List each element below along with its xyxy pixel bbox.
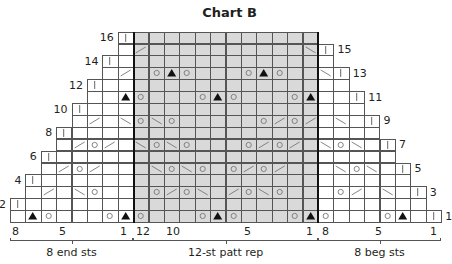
chart-cell <box>349 210 365 223</box>
chart-cell <box>318 91 334 104</box>
chart-cell <box>179 115 195 128</box>
chart-cell <box>287 127 303 140</box>
double-decrease-triangle-icon <box>256 67 271 79</box>
chart-cell <box>133 103 149 116</box>
section-center-tick <box>72 241 73 244</box>
row-number-label: 11 <box>368 92 382 104</box>
yarn-over-icon <box>87 186 102 198</box>
chart-cell <box>333 198 349 211</box>
yarn-over-icon <box>164 115 179 127</box>
chart-cell <box>287 198 303 211</box>
chart-cell <box>87 91 103 104</box>
chart-cell <box>303 186 319 199</box>
chart-cell <box>256 55 272 68</box>
chart-cell <box>118 55 134 68</box>
chart-cell <box>256 151 272 164</box>
chart-cell <box>118 198 134 211</box>
chart-cell <box>133 67 149 80</box>
chart-cell <box>118 186 134 199</box>
double-decrease-triangle-icon <box>210 91 225 103</box>
row-number-label: 14 <box>84 56 98 68</box>
chart-cell <box>179 55 195 68</box>
purl-bar-icon <box>333 67 348 79</box>
chart-cell <box>349 174 365 187</box>
chart-cell <box>349 151 365 164</box>
left-slant-decrease-icon <box>195 186 210 198</box>
chart-cell <box>149 198 165 211</box>
yarn-over-icon <box>241 186 256 198</box>
chart-cell <box>256 103 272 116</box>
chart-cell <box>272 151 288 164</box>
right-slant-decrease-icon <box>272 115 287 127</box>
yarn-over-icon <box>287 115 302 127</box>
row-number-label: 8 <box>45 127 52 139</box>
chart-cell <box>303 67 319 80</box>
chart-cell <box>226 198 242 211</box>
purl-bar-icon <box>56 127 71 139</box>
stitch-number-label: 5 <box>244 226 251 238</box>
chart-cell <box>349 115 365 128</box>
right-slant-decrease-icon <box>272 163 287 175</box>
chart-cell <box>303 151 319 164</box>
chart-cell <box>272 91 288 104</box>
chart-cell <box>133 127 149 140</box>
chart-cell <box>179 151 195 164</box>
left-slant-decrease-icon <box>256 186 271 198</box>
chart-cell <box>303 174 319 187</box>
chart-cell <box>364 198 380 211</box>
chart-cell <box>226 44 242 57</box>
chart-cell <box>241 198 257 211</box>
chart-cell <box>272 198 288 211</box>
chart-cell <box>56 198 72 211</box>
chart-cell <box>287 55 303 68</box>
chart-cell <box>318 127 334 140</box>
chart-cell <box>303 79 319 92</box>
chart-cell <box>241 44 257 57</box>
chart-cell <box>226 174 242 187</box>
chart-cell <box>210 55 226 68</box>
left-slant-decrease-icon <box>380 186 395 198</box>
chart-cell <box>102 103 118 116</box>
chart-cell <box>102 174 118 187</box>
right-slant-decrease-icon <box>87 163 102 175</box>
purl-bar-icon <box>364 115 379 127</box>
chart-cell <box>226 103 242 116</box>
purl-bar-icon <box>102 55 117 67</box>
chart-cell <box>118 151 134 164</box>
chart-cell <box>87 151 103 164</box>
chart-cell <box>272 127 288 140</box>
chart-cell <box>149 174 165 187</box>
yarn-over-icon <box>287 91 302 103</box>
chart-cell <box>87 210 103 223</box>
chart-cell <box>164 55 180 68</box>
chart-cell <box>241 127 257 140</box>
chart-cell <box>102 79 118 92</box>
yarn-over-icon <box>149 139 164 151</box>
purl-bar-icon <box>410 186 425 198</box>
chart-cell <box>133 32 149 45</box>
yarn-over-icon <box>179 186 194 198</box>
left-slant-decrease-icon <box>318 67 333 79</box>
chart-cell <box>102 67 118 80</box>
chart-cell <box>333 79 349 92</box>
chart-cell <box>164 127 180 140</box>
chart-cell <box>287 67 303 80</box>
chart-cell <box>272 79 288 92</box>
chart-cell <box>303 198 319 211</box>
chart-cell <box>133 198 149 211</box>
left-slant-decrease-icon <box>149 115 164 127</box>
yarn-over-icon <box>226 210 241 222</box>
chart-cell <box>56 139 72 152</box>
double-decrease-triangle-icon <box>303 91 318 103</box>
yarn-over-icon <box>195 163 210 175</box>
right-slant-decrease-icon <box>72 139 87 151</box>
yarn-over-icon <box>179 67 194 79</box>
chart-cell <box>149 79 165 92</box>
chart-cell <box>241 55 257 68</box>
chart-cell <box>118 44 134 57</box>
chart-cell <box>410 198 426 211</box>
chart-cell <box>333 210 349 223</box>
purl-bar-icon <box>349 91 364 103</box>
chart-cell <box>256 198 272 211</box>
chart-cell <box>41 198 57 211</box>
